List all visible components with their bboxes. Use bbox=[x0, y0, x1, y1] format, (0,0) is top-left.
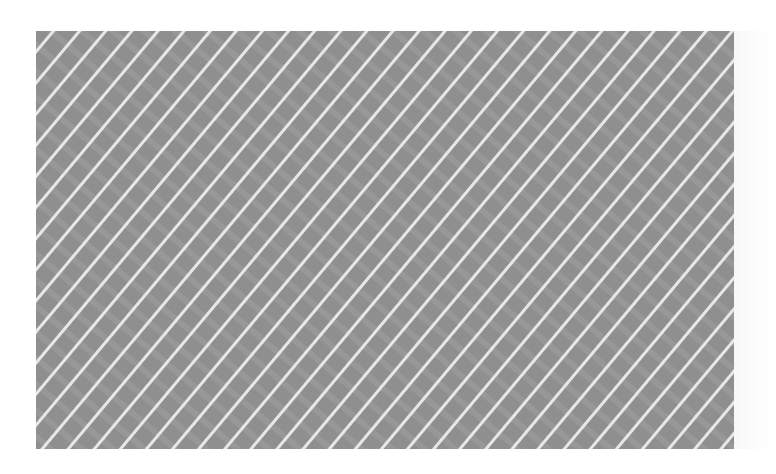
striped-pattern-panel bbox=[36, 31, 734, 449]
canvas bbox=[0, 0, 776, 474]
faint-edge-shadow bbox=[734, 31, 776, 449]
